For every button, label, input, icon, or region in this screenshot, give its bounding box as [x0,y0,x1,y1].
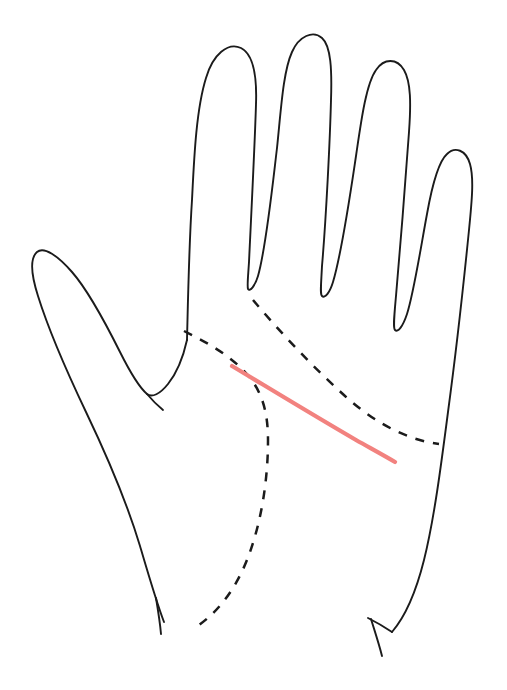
figure-root [0,0,507,690]
hand-diagram-svg [0,0,507,690]
paper-background [0,0,507,690]
